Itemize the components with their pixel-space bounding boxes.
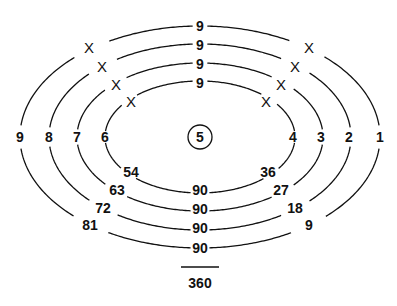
ring-3-arc (209, 197, 271, 211)
ring-4-arc (106, 105, 122, 131)
ring-3-arc (294, 89, 323, 129)
x-mark: X (111, 76, 121, 93)
ring-4-arc (106, 143, 121, 168)
ring-2-arc (209, 215, 281, 229)
ring-4-arc (279, 143, 295, 169)
right-bottom-label: 9 (305, 217, 313, 233)
x-mark: X (290, 58, 300, 75)
ring-2-arc (50, 147, 90, 201)
ring-1-arc (21, 149, 74, 216)
total-label: 360 (188, 275, 212, 291)
ring-1-arc (324, 57, 379, 126)
ring-2-arc (310, 73, 351, 127)
ring-2-arc (117, 44, 193, 59)
x-mark: X (304, 39, 314, 56)
right-label: 2 (345, 129, 353, 145)
right-bottom-label: 36 (260, 164, 276, 180)
left-bottom-label: 54 (123, 164, 139, 180)
top-label: 9 (196, 18, 204, 34)
ring-3-arc (78, 90, 105, 129)
left-label: 7 (73, 129, 81, 145)
x-mark: X (84, 39, 94, 56)
ring-4-arc (207, 81, 261, 94)
left-bottom-label: 63 (109, 182, 125, 198)
ring-1-arc (21, 58, 74, 126)
ring-1-arc (326, 149, 379, 217)
ring-4-arc (136, 178, 191, 192)
right-label: 3 (317, 129, 325, 145)
ring-3-arc (127, 63, 193, 77)
ring-2-arc (207, 44, 281, 58)
right-bottom-label: 27 (273, 182, 289, 198)
ring-1-arc (109, 26, 192, 41)
top-label: 9 (196, 37, 204, 53)
ring-4-arc (137, 81, 193, 95)
left-label: 9 (16, 129, 24, 145)
left-label: 6 (101, 129, 109, 145)
ring-2-arc (118, 215, 191, 230)
ring-1-arc (209, 233, 291, 248)
bottom-label: 90 (192, 182, 208, 198)
x-mark: X (261, 93, 271, 110)
ring-2-arc (50, 74, 89, 127)
ring-3-arc (78, 145, 106, 185)
left-label: 8 (45, 129, 53, 145)
bottom-label: 90 (192, 201, 208, 217)
x-mark: X (126, 93, 136, 110)
x-mark: X (276, 76, 286, 93)
right-bottom-label: 18 (287, 200, 303, 216)
concentric-ellipse-diagram: 99064XX543699073XX632799082XX721899091XX… (0, 0, 397, 306)
ring-3-arc (207, 63, 271, 77)
ring-1-arc (108, 233, 190, 248)
bottom-label: 90 (192, 240, 208, 256)
ring-2-arc (310, 147, 351, 201)
right-label: 4 (289, 129, 297, 145)
center-label: 5 (196, 129, 204, 145)
bottom-label: 90 (192, 220, 208, 236)
ring-4-arc (277, 104, 294, 131)
right-label: 1 (376, 129, 384, 145)
top-label: 9 (196, 75, 204, 91)
left-bottom-label: 81 (82, 217, 98, 233)
ring-3-arc (294, 145, 323, 185)
ring-1-arc (207, 26, 289, 41)
x-mark: X (97, 58, 107, 75)
ring-3-arc (127, 197, 190, 211)
ring-4-arc (209, 179, 263, 193)
top-label: 9 (196, 56, 204, 72)
left-bottom-label: 72 (95, 200, 111, 216)
